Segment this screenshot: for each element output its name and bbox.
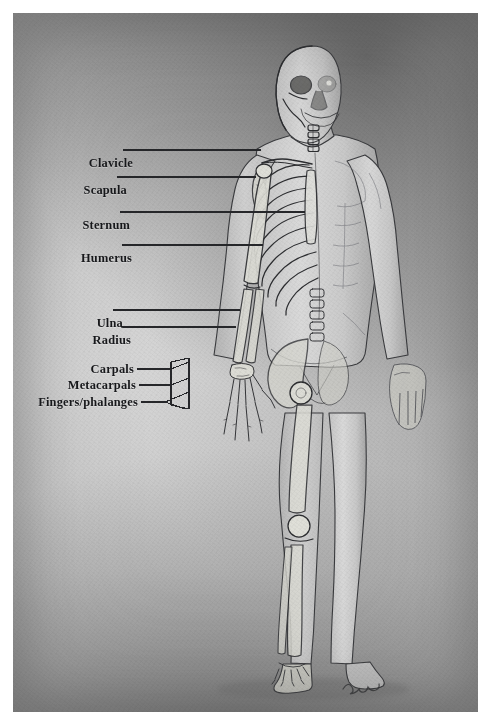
label-radius: Radius [93,333,131,348]
carpal-group [230,364,254,380]
sternum-bone [305,170,317,244]
anatomy-figure [13,13,478,712]
label-sternum: Sternum [82,218,130,233]
label-fingers-phalanges: Fingers/phalanges [38,395,138,410]
metacarpals [230,375,262,405]
right-hand [390,364,427,430]
left-foot [274,664,312,693]
label-ulna: Ulna [97,316,123,331]
illustration-plate: Clavicle Scapula Sternum Humerus Ulna Ra… [0,0,489,727]
eye-socket-left [291,76,312,94]
label-scapula: Scapula [84,183,127,198]
left-hand [224,364,275,442]
phalanges [224,390,275,441]
label-clavicle: Clavicle [89,156,133,171]
label-humerus: Humerus [81,251,132,266]
label-carpals: Carpals [91,362,134,377]
hand-leader-bracket [137,358,189,409]
right-leg [329,413,366,664]
femoral-head [290,382,312,404]
label-metacarpals: Metacarpals [68,378,136,393]
patella [288,515,310,537]
artwork-canvas: Clavicle Scapula Sternum Humerus Ulna Ra… [13,13,478,712]
